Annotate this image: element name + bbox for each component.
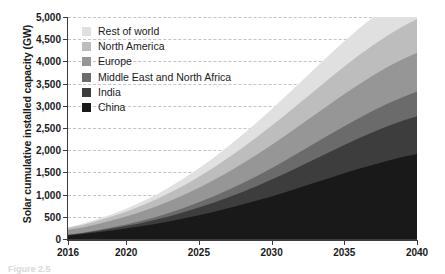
plot-area: 05001,0001,5002,0002,5003,0003,5004,0004… xyxy=(68,17,417,239)
legend-item: Rest of world xyxy=(82,25,231,38)
x-tick xyxy=(344,240,345,245)
x-axis-line xyxy=(67,239,417,241)
legend-swatch-icon xyxy=(82,103,91,112)
legend-swatch-icon xyxy=(82,42,91,51)
y-tick-label: 1,000 xyxy=(36,189,61,200)
x-tick-label: 2020 xyxy=(115,247,137,258)
legend-item: Europe xyxy=(82,55,231,68)
y-tick-label: 2,500 xyxy=(36,123,61,134)
legend-label: China xyxy=(98,101,125,114)
legend-label: North America xyxy=(98,40,165,53)
y-tick-label: 4,000 xyxy=(36,56,61,67)
x-tick-label: 2030 xyxy=(260,247,282,258)
legend-label: Rest of world xyxy=(98,25,159,38)
figure-caption: Figure 2.5 xyxy=(8,264,51,274)
legend-swatch-icon xyxy=(82,73,91,82)
x-tick-label: 2025 xyxy=(188,247,210,258)
figure-container: Solar cumulative installed capacity (GW)… xyxy=(0,0,445,274)
x-tick-label: 2040 xyxy=(406,247,428,258)
legend-label: Middle East and North Africa xyxy=(98,71,231,84)
x-tick xyxy=(68,240,69,245)
y-tick-label: 3,500 xyxy=(36,78,61,89)
y-tick-label: 0 xyxy=(55,234,61,245)
x-tick xyxy=(126,240,127,245)
y-tick-label: 5,000 xyxy=(36,12,61,23)
legend-label: Europe xyxy=(98,55,132,68)
x-tick-label: 2016 xyxy=(57,247,79,258)
legend-item: Middle East and North Africa xyxy=(82,71,231,84)
legend-swatch-icon xyxy=(82,88,91,97)
legend-label: India xyxy=(98,86,121,99)
legend-swatch-icon xyxy=(82,27,91,36)
x-tick xyxy=(272,240,273,245)
y-tick-label: 4,500 xyxy=(36,34,61,45)
chart-legend: Rest of worldNorth AmericaEuropeMiddle E… xyxy=(82,25,231,114)
legend-item: North America xyxy=(82,40,231,53)
legend-swatch-icon xyxy=(82,57,91,66)
y-axis-title: Solar cumulative installed capacity (GW) xyxy=(21,9,33,239)
y-tick-label: 3,000 xyxy=(36,100,61,111)
y-tick-label: 1,500 xyxy=(36,167,61,178)
legend-item: India xyxy=(82,86,231,99)
x-tick-label: 2035 xyxy=(333,247,355,258)
legend-item: China xyxy=(82,101,231,114)
x-tick xyxy=(417,240,418,245)
y-tick-label: 2,000 xyxy=(36,145,61,156)
x-tick xyxy=(199,240,200,245)
y-tick-label: 500 xyxy=(44,211,61,222)
